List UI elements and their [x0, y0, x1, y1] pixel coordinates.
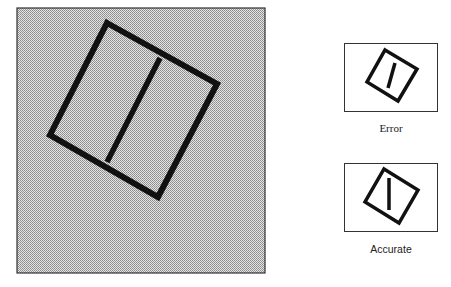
error-label: Error: [341, 122, 441, 134]
accurate-panel: [345, 164, 438, 232]
error-panel: [345, 44, 438, 112]
accurate-label: Accurate: [341, 243, 441, 255]
main-panel: [17, 8, 265, 273]
